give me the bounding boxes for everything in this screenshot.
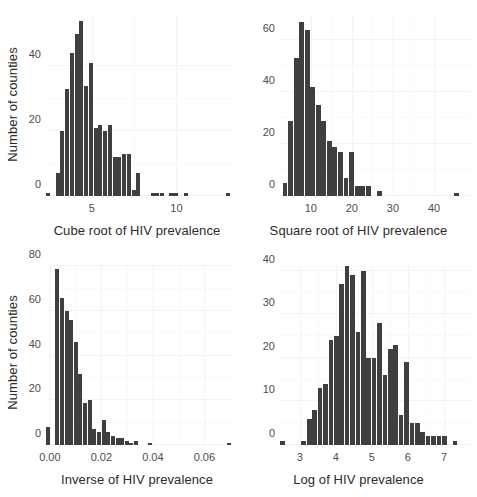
histogram-bar xyxy=(426,436,431,445)
histogram-bar xyxy=(160,193,164,196)
histogram-bar xyxy=(69,320,73,445)
histogram-bar xyxy=(88,400,92,445)
histogram-bar xyxy=(106,432,110,445)
histogram-bar xyxy=(129,443,133,445)
histogram-bar xyxy=(420,432,425,445)
histogram-bar xyxy=(56,173,60,196)
histogram-bar xyxy=(122,154,126,196)
histogram-bar xyxy=(127,154,131,196)
histogram-bar xyxy=(120,438,124,445)
plot-area-3: 020406080 0.000.020.040.06 xyxy=(46,262,234,445)
x-tick-label: 4 xyxy=(333,451,339,463)
histogram-bar xyxy=(103,131,107,196)
histogram-bar xyxy=(155,193,159,196)
histogram-bar xyxy=(92,429,96,445)
histogram-bar xyxy=(393,345,398,445)
histogram-bar xyxy=(323,384,328,445)
histogram-bars-1 xyxy=(46,14,234,196)
y-tick-label: 0 xyxy=(35,427,41,439)
histogram-bar xyxy=(305,30,310,196)
x-tick-label: 0.06 xyxy=(194,451,215,463)
plot-area-2: 0204060 10203040 xyxy=(280,14,471,196)
y-tick-label: 40 xyxy=(263,74,275,86)
histogram-bar xyxy=(329,340,334,445)
histogram-bar xyxy=(134,441,138,445)
histogram-bar xyxy=(404,362,409,445)
y-tick-label: 20 xyxy=(263,340,275,352)
histogram-bar xyxy=(227,443,231,445)
plot-canvas-3 xyxy=(46,262,234,445)
y-tick-label: 40 xyxy=(29,338,41,350)
histogram-bar xyxy=(94,128,98,196)
x-tick-label: 5 xyxy=(369,451,375,463)
histogram-bar xyxy=(78,374,82,445)
histogram-bar xyxy=(332,147,337,196)
histogram-bar xyxy=(117,157,121,196)
histogram-bar xyxy=(349,152,354,196)
x-tick-label: 40 xyxy=(428,202,440,214)
x-tick-label: 0.02 xyxy=(91,451,112,463)
histogram-bar xyxy=(388,349,393,445)
x-axis-title-3: Inverse of HIV prevalence xyxy=(0,472,240,487)
histogram-bar xyxy=(46,427,50,445)
y-tick-label: 10 xyxy=(263,383,275,395)
x-tick-label: 7 xyxy=(441,451,447,463)
y-axis-title-1: Number of counties xyxy=(2,0,22,208)
histogram-bar xyxy=(361,271,366,445)
histogram-bar xyxy=(60,298,64,445)
histogram-bar xyxy=(108,125,112,197)
histogram-bar xyxy=(377,191,382,196)
x-axis-title-1: Cube root of HIV prevalence xyxy=(0,223,240,238)
x-tick-label: 6 xyxy=(405,451,411,463)
x-tick-label: 30 xyxy=(387,202,399,214)
figure-panel-grid: Number of counties 02040 510 Cube root o… xyxy=(0,0,477,497)
plot-canvas-2 xyxy=(280,14,471,196)
histogram-bar xyxy=(345,266,350,445)
histogram-bar xyxy=(454,193,459,196)
histogram-bar xyxy=(366,358,371,445)
histogram-bar xyxy=(89,63,93,196)
histogram-bars-4 xyxy=(280,262,471,445)
histogram-bar xyxy=(307,419,312,445)
histogram-bar xyxy=(344,178,349,196)
histogram-bar xyxy=(174,193,178,196)
histogram-bar xyxy=(169,193,173,196)
y-tick-label: 0 xyxy=(269,178,275,190)
histogram-bar xyxy=(84,86,88,197)
histogram-bar xyxy=(111,436,115,445)
histogram-bar xyxy=(360,186,365,196)
y-tick-label: 60 xyxy=(263,22,275,34)
histogram-bar xyxy=(338,152,343,196)
histogram-bar xyxy=(65,311,69,445)
histogram-bar xyxy=(125,441,129,445)
x-tick-label: 0.00 xyxy=(39,451,60,463)
y-tick-label: 30 xyxy=(263,296,275,308)
histogram-bar xyxy=(437,436,442,445)
histogram-bar xyxy=(46,193,50,196)
histogram-bar xyxy=(321,121,326,196)
histogram-bar xyxy=(399,415,404,446)
histogram-bar xyxy=(102,420,106,445)
y-tick-label: 20 xyxy=(263,126,275,138)
plot-canvas-4 xyxy=(280,262,471,445)
histogram-bar xyxy=(356,332,361,445)
y-tick-label: 60 xyxy=(29,293,41,305)
histogram-bar xyxy=(74,342,78,445)
x-tick-label: 10 xyxy=(305,202,317,214)
panel-cube-root: Number of counties 02040 510 Cube root o… xyxy=(0,0,240,248)
y-tick-label: 20 xyxy=(29,113,41,125)
histogram-bar xyxy=(410,423,415,445)
y-tick-label: 40 xyxy=(29,48,41,60)
histogram-bar xyxy=(355,186,360,196)
histogram-bar xyxy=(283,183,288,196)
histogram-bar xyxy=(55,269,59,445)
histogram-bar xyxy=(60,131,64,196)
panel-square-root: 0204060 10203040 Square root of HIV prev… xyxy=(240,0,477,248)
plot-area-4: 010203040 34567 xyxy=(280,262,471,445)
histogram-bar xyxy=(318,388,323,445)
plot-area-1: 02040 510 xyxy=(46,14,234,196)
histogram-bar xyxy=(310,87,315,196)
histogram-bar xyxy=(316,105,321,196)
histogram-bar xyxy=(184,193,188,196)
histogram-bar xyxy=(415,423,420,445)
